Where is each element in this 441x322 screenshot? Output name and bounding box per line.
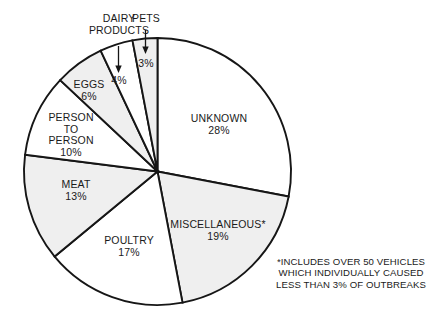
slice-label-unknown-percent: 28% <box>174 125 264 137</box>
slice-label-meat-name: MEAT <box>47 179 105 191</box>
slice-percent-dairy-products: 4% <box>101 75 137 87</box>
slice-label-miscellaneous: MISCELLANEOUS* 19% <box>163 219 273 242</box>
slice-label-miscellaneous-name: MISCELLANEOUS* <box>163 219 273 231</box>
slice-label-dairy-percent: 4% <box>101 75 137 87</box>
slice-percent-pets: 3% <box>128 58 164 70</box>
callout-pets-name: PETS <box>122 13 170 25</box>
slice-label-person-to-person: PERSON TO PERSON 10% <box>38 112 104 158</box>
slice-label-ptp-percent: 10% <box>38 147 104 159</box>
footnote-line-2: WHICH INDIVIDUALLY CAUSED <box>265 267 437 278</box>
slice-label-ptp-line1: PERSON <box>38 112 104 124</box>
slice-label-unknown-name: UNKNOWN <box>174 113 264 125</box>
footnote-line-1: *INCLUDES OVER 50 VEHICLES <box>265 256 437 267</box>
callout-dairy-line2: PRODUCTS <box>62 25 176 37</box>
slice-label-meat-percent: 13% <box>47 191 105 203</box>
callout-label-pets: PETS <box>122 13 170 25</box>
chart-footnote: *INCLUDES OVER 50 VEHICLES WHICH INDIVID… <box>265 256 437 290</box>
footnote-line-3: LESS THAN 3% OF OUTBREAKS <box>265 279 437 290</box>
slice-label-eggs-percent: 6% <box>63 91 115 103</box>
slice-label-poultry-percent: 17% <box>95 247 163 259</box>
slice-label-poultry: POULTRY 17% <box>95 235 163 258</box>
slice-label-miscellaneous-percent: 19% <box>163 231 273 243</box>
pie-chart-figure: UNKNOWN 28% MISCELLANEOUS* 19% POULTRY 1… <box>0 0 441 322</box>
slice-label-unknown: UNKNOWN 28% <box>174 113 264 136</box>
slice-label-poultry-name: POULTRY <box>95 235 163 247</box>
slice-label-pets-percent: 3% <box>128 58 164 70</box>
slice-label-meat: MEAT 13% <box>47 179 105 202</box>
